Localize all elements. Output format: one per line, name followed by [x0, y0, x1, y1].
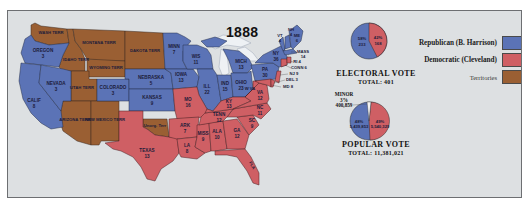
- svg-text:36: 36: [273, 57, 279, 62]
- svg-text:168: 168: [375, 41, 383, 46]
- svg-text:WIS: WIS: [192, 54, 201, 59]
- svg-text:GA: GA: [234, 128, 242, 133]
- svg-text:12: 12: [257, 96, 263, 101]
- svg-text:30: 30: [262, 73, 268, 78]
- svg-text:MD 8: MD 8: [283, 84, 294, 89]
- electoral-vote-caption: ELECTORAL VOTE TOTAL: 401: [332, 70, 420, 86]
- svg-text:CONN 6: CONN 6: [291, 65, 307, 70]
- svg-text:NEVADA: NEVADA: [46, 81, 66, 86]
- svg-text:NC: NC: [257, 105, 264, 110]
- svg-text:OHIO: OHIO: [235, 80, 247, 85]
- state-colorado: [97, 79, 129, 101]
- democratic-swatch: [502, 53, 522, 67]
- popular-vote-caption: POPULAR VOTE TOTAL: 11,381,021: [328, 141, 424, 157]
- electoral-vote-total: TOTAL: 401: [332, 78, 420, 86]
- svg-text:IOWA: IOWA: [175, 72, 188, 77]
- svg-text:9: 9: [251, 124, 254, 129]
- svg-text:TENN: TENN: [213, 112, 226, 117]
- map-title: 1888: [226, 24, 258, 40]
- svg-text:233: 233: [359, 42, 367, 47]
- svg-text:NEBRASKA: NEBRASKA: [138, 75, 165, 80]
- svg-text:Unorg. Terr: Unorg. Terr: [144, 123, 167, 128]
- svg-text:SC: SC: [249, 118, 256, 123]
- svg-text:ILL: ILL: [204, 84, 211, 89]
- svg-text:KANSAS: KANSAS: [142, 95, 161, 100]
- svg-text:10: 10: [214, 135, 220, 140]
- republican-swatch: [502, 36, 522, 50]
- svg-text:3: 3: [42, 54, 45, 59]
- svg-text:58%: 58%: [358, 36, 367, 41]
- svg-text:5,540,329: 5,540,329: [371, 124, 390, 129]
- svg-text:13: 13: [178, 78, 184, 83]
- state-kansas: [129, 89, 175, 111]
- svg-text:15: 15: [222, 87, 228, 92]
- state-ri: [287, 57, 291, 63]
- svg-text:NY: NY: [273, 51, 279, 56]
- svg-text:COLORADO: COLORADO: [100, 85, 127, 90]
- svg-text:13: 13: [226, 104, 232, 109]
- state-pa: [251, 63, 279, 81]
- svg-text:7: 7: [173, 50, 176, 55]
- svg-text:UTAH TERR: UTAH TERR: [70, 85, 94, 90]
- svg-text:WYOMING TERR: WYOMING TERR: [89, 65, 123, 70]
- legend-item-territories: Territories: [470, 70, 522, 84]
- svg-text:RI 4: RI 4: [293, 59, 301, 64]
- svg-text:IND: IND: [221, 81, 230, 86]
- minor-vote-label: MINOR 3% 400,859: [333, 92, 355, 109]
- svg-text:LA: LA: [184, 143, 191, 148]
- svg-text:14: 14: [301, 54, 306, 59]
- legend-item-republican: Republican (B. Harrison): [419, 36, 522, 50]
- svg-text:IDAHO TERR: IDAHO TERR: [63, 57, 89, 62]
- svg-text:PA: PA: [262, 67, 269, 72]
- svg-text:8: 8: [186, 149, 189, 154]
- svg-text:MICH: MICH: [235, 59, 247, 64]
- svg-text:TEXAS: TEXAS: [139, 148, 154, 153]
- svg-text:9: 9: [202, 137, 205, 142]
- svg-text:MISS: MISS: [197, 131, 208, 136]
- svg-text:23: 23: [238, 86, 244, 91]
- svg-text:11: 11: [258, 111, 263, 116]
- svg-text:MO: MO: [184, 97, 192, 102]
- svg-text:W VA: W VA: [245, 86, 256, 91]
- svg-text:MINN: MINN: [168, 44, 180, 49]
- state-conn: [281, 59, 287, 67]
- svg-text:ARK: ARK: [180, 123, 191, 128]
- territory-swatch: [502, 70, 522, 84]
- svg-text:12: 12: [216, 118, 222, 123]
- svg-text:CALIF: CALIF: [27, 98, 41, 103]
- electoral-vote-label: ELECTORAL VOTE: [332, 70, 420, 78]
- svg-text:9: 9: [151, 101, 154, 106]
- svg-text:DAKOTA TERR: DAKOTA TERR: [130, 48, 160, 53]
- map-frame: WASH TERR OREGON 3 IDAHO TERR MONTANA TE…: [7, 10, 522, 198]
- svg-text:NEW MEXICO TERR: NEW MEXICO TERR: [85, 117, 125, 122]
- svg-text:22: 22: [204, 90, 210, 95]
- svg-text:OREGON: OREGON: [33, 48, 54, 53]
- popular-vote-total: TOTAL: 11,381,021: [328, 149, 424, 157]
- svg-text:MONTANA TERR: MONTANA TERR: [82, 40, 116, 45]
- svg-text:3: 3: [55, 87, 58, 92]
- popular-vote-label: POPULAR VOTE: [328, 141, 424, 149]
- state-arizona: [59, 101, 91, 145]
- svg-text:ALA: ALA: [212, 129, 222, 134]
- svg-text:16: 16: [185, 103, 191, 108]
- electoral-vote-pie: 58% 233 42% 168: [351, 23, 387, 59]
- svg-text:5: 5: [150, 81, 153, 86]
- svg-text:3: 3: [112, 91, 115, 96]
- svg-text:DEL 3: DEL 3: [286, 77, 298, 82]
- svg-text:11: 11: [194, 60, 199, 65]
- legend-item-democratic: Democratic (Cleveland): [424, 53, 522, 67]
- svg-text:VA: VA: [257, 90, 264, 95]
- svg-text:12: 12: [234, 134, 240, 139]
- svg-text:8: 8: [33, 104, 36, 109]
- state-ark: [169, 117, 199, 139]
- popular-vote-pie: 48% 5,439,853 49% 5,540,329: [350, 102, 390, 140]
- state-newmexico: [91, 101, 119, 145]
- svg-text:13: 13: [238, 65, 244, 70]
- svg-text:7: 7: [184, 129, 187, 134]
- svg-text:WASH TERR: WASH TERR: [38, 30, 63, 35]
- svg-text:5,439,853: 5,439,853: [350, 124, 369, 129]
- svg-text:42%: 42%: [374, 35, 383, 40]
- svg-text:13: 13: [144, 154, 150, 159]
- svg-text:NJ 9: NJ 9: [290, 71, 300, 76]
